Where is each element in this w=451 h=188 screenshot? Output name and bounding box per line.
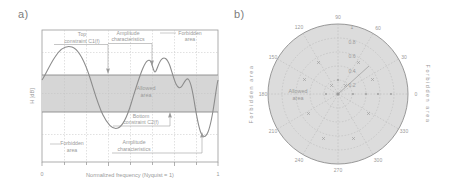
- theta-tick-270: 270: [334, 167, 343, 173]
- x-tick-0: 0: [41, 171, 44, 177]
- panel-a-plot: Top constraint C1(f) Amplitude character…: [0, 0, 226, 188]
- amp-char-bottom-label-line1: Amplitude: [122, 139, 145, 145]
- theta-tick-30: 30: [401, 54, 407, 60]
- r-tick-1: 1: [351, 24, 354, 30]
- theta-tick-240: 240: [295, 157, 304, 163]
- allowed-area-label-line1: Allowed: [137, 85, 156, 91]
- polar-allowed-label-line1: Allowed: [289, 88, 308, 94]
- theta-tick-120: 120: [295, 24, 304, 30]
- forbidden-top-label-line1: Forbidden: [178, 30, 201, 36]
- bottom-constraint-label-line1: Bottom: [133, 113, 149, 119]
- polar-forbidden-label-left: Forbidden area: [248, 65, 254, 124]
- top-constraint-label-line2: constraint C1(f): [64, 38, 100, 44]
- panel-b-label: b): [234, 8, 244, 20]
- polar-forbidden-label-right: Forbidden area: [425, 65, 431, 124]
- theta-tick-0: 0: [415, 91, 418, 97]
- polar-allowed-label-line2: area: [293, 95, 304, 101]
- r-tick-0-6: 0.6: [349, 53, 356, 59]
- bottom-constraint-label-line2: constraint C2(f): [123, 119, 159, 125]
- forbidden-bottom-label-line2: area: [67, 147, 77, 153]
- amp-char-top-label-line2: characteristics: [111, 36, 145, 42]
- theta-tick-90: 90: [335, 14, 341, 20]
- theta-tick-300: 300: [374, 157, 383, 163]
- r-tick-0-4: 0.4: [349, 68, 356, 74]
- top-constraint-label-line1: Top: [78, 31, 86, 37]
- theta-tick-150: 150: [269, 54, 278, 60]
- x-axis-ticks: [42, 162, 218, 166]
- panel-b-polar-mask: b): [226, 0, 451, 188]
- panel-b-plot: 1 0.8 0.6 0.4 0.2 0 30 60 90 120 150 180…: [226, 0, 451, 188]
- allowed-area-label-line2: area: [141, 92, 152, 98]
- r-tick-0-8: 0.8: [349, 39, 356, 45]
- amp-char-top-label-line1: Amplitude: [116, 30, 139, 36]
- x-tick-1: 1: [217, 171, 220, 177]
- theta-tick-210: 210: [269, 128, 278, 134]
- forbidden-bottom-label-line1: Forbidden: [60, 140, 83, 146]
- theta-tick-180: 180: [259, 91, 268, 97]
- y-axis-label: H [dB]: [29, 88, 35, 104]
- panel-a-label: a): [18, 8, 28, 20]
- amp-char-bottom-label-line2: characteristics: [117, 146, 151, 152]
- theta-tick-330: 330: [400, 128, 409, 134]
- panel-a-amplitude-mask: a) Top constraint C1(f): [0, 0, 226, 188]
- forbidden-top-label-line2: area: [185, 36, 195, 42]
- r-tick-0-2: 0.2: [349, 82, 356, 88]
- x-axis-label: Normalized frequency (Nyquist = 1): [86, 172, 174, 178]
- theta-tick-60: 60: [375, 25, 381, 31]
